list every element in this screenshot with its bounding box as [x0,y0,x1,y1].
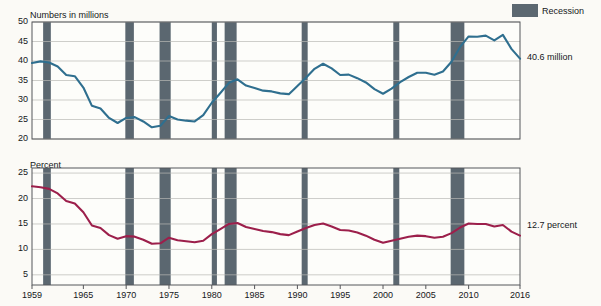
y-tick-label: 25 [6,167,28,177]
x-tick-label: 2000 [367,290,399,300]
x-tick-label: 1990 [281,290,313,300]
y-tick-label: 10 [6,243,28,253]
y-tick-label: 20 [6,193,28,203]
recession-band [160,168,171,285]
x-tick-label: 1980 [196,290,228,300]
y-tick-label: 15 [6,218,28,228]
recession-band [212,168,217,285]
x-tick-label: 1975 [153,290,185,300]
x-tick-label: 2016 [504,290,536,300]
x-tick-label: 1965 [67,290,99,300]
x-tick-label: 2010 [453,290,485,300]
x-tick-label: 2005 [410,290,442,300]
y-tick-label: 40 [6,55,28,65]
recession-band [43,168,51,285]
y-tick-label: 30 [6,94,28,104]
chart-container: Recession Numbers in millions Percent Nu… [0,0,601,306]
y-tick-label: 25 [6,114,28,124]
x-tick-label: 1995 [324,290,356,300]
x-tick-label: 1970 [110,290,142,300]
y-tick-label: 35 [6,75,28,85]
recession-band [393,168,399,285]
recession-band [302,168,308,285]
y-tick-label: 20 [6,133,28,143]
x-tick-label: 1985 [239,290,271,300]
y-tick-label: 45 [6,36,28,46]
y-tick-label: 50 [6,16,28,26]
y-tick-label: 5 [6,269,28,279]
recession-band [125,168,134,285]
plot-area-poverty-rate [32,168,520,285]
x-tick-label: 1959 [16,290,48,300]
chart-svg [0,0,601,306]
